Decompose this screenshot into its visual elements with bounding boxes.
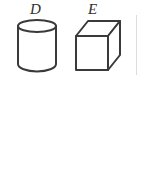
figure-canvas: D E xyxy=(0,0,141,190)
cylinder-top-ellipse xyxy=(18,20,56,32)
solid-label-e: E xyxy=(88,2,97,17)
cube-solid-e xyxy=(76,21,120,70)
solid-label-d: D xyxy=(30,2,41,17)
page-margin-artifact-line xyxy=(136,15,137,75)
geometric-solids-illustration xyxy=(0,0,141,190)
cylinder-solid-d xyxy=(18,20,56,72)
cube-front-face xyxy=(76,36,108,70)
